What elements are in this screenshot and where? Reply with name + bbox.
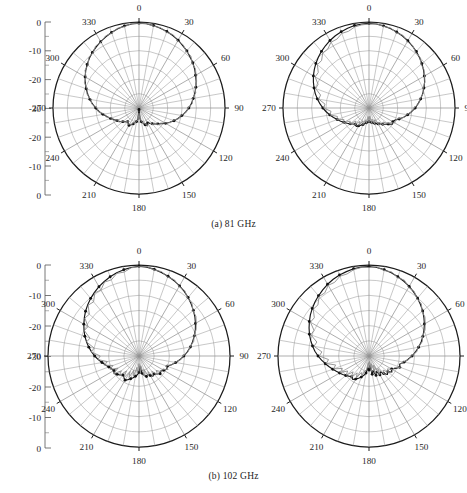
radial-tick-label: 0 xyxy=(36,444,41,454)
angular-tick-label: 120 xyxy=(453,404,467,414)
angular-tick-label: 180 xyxy=(362,203,376,213)
angular-tick-label: 270 xyxy=(32,103,46,113)
angular-tick-label: 240 xyxy=(41,404,55,414)
data-point-marker xyxy=(82,323,85,326)
data-point-marker xyxy=(371,373,374,376)
plot-b-left: 0306090120150180210240270300330 xyxy=(55,243,230,473)
data-point-marker xyxy=(124,379,127,382)
angular-tick-label: 60 xyxy=(451,53,461,63)
angular-tick-label: 300 xyxy=(41,299,55,309)
angular-tick-label: 90 xyxy=(234,103,244,113)
angular-tick-label: 330 xyxy=(80,261,94,271)
data-point-marker xyxy=(316,97,319,100)
plot-b-right: 0306090120150180210240270300330 xyxy=(285,243,460,473)
angular-tick-label: 90 xyxy=(239,351,249,361)
radial-tick-label: -20 xyxy=(29,75,42,85)
angular-tick-label: 180 xyxy=(132,203,146,213)
data-point-marker xyxy=(312,74,315,77)
data-point-marker xyxy=(159,372,162,375)
radial-tick-label: -10 xyxy=(29,413,42,423)
angular-tick-label: 150 xyxy=(415,442,429,452)
angular-tick-label: 180 xyxy=(362,456,376,466)
data-point-marker xyxy=(320,50,323,53)
data-point-marker xyxy=(313,87,316,90)
data-point-marker xyxy=(83,335,86,338)
angular-tick-label: 300 xyxy=(276,53,290,63)
angular-tick-label: 240 xyxy=(276,153,290,163)
radial-tick-label: -10 xyxy=(29,291,42,301)
angular-tick-label: 150 xyxy=(182,190,196,200)
angular-tick-label: 150 xyxy=(185,442,199,452)
data-point-marker xyxy=(329,39,332,42)
caption-panel-a: (a) 81 GHz xyxy=(0,219,467,229)
data-point-marker xyxy=(122,268,125,271)
angular-tick-label: 210 xyxy=(312,190,326,200)
data-point-marker xyxy=(375,374,378,377)
angular-tick-label: 60 xyxy=(455,299,465,309)
angular-tick-label: 300 xyxy=(271,299,285,309)
radial-tick-label: -10 xyxy=(29,162,42,172)
data-point-marker xyxy=(93,355,96,358)
angular-tick-label: 150 xyxy=(412,190,426,200)
angular-tick-label: 270 xyxy=(27,351,41,361)
radial-tick-label: 0 xyxy=(36,18,41,28)
data-point-marker xyxy=(311,345,314,348)
angular-tick-label: 270 xyxy=(257,351,271,361)
angular-tick-label: 60 xyxy=(221,53,231,63)
polar-radiation-pattern-figure: 0 -10 -20 -30 -20 -10 0 0306090120150180… xyxy=(0,0,467,493)
data-point-marker xyxy=(107,366,110,369)
radial-tick-label: -20 xyxy=(29,383,42,393)
data-point-marker xyxy=(308,333,311,336)
angular-tick-label: 60 xyxy=(225,299,235,309)
angular-tick-label: 300 xyxy=(46,53,60,63)
angular-tick-label: 240 xyxy=(46,153,60,163)
angular-tick-label: 0 xyxy=(137,246,142,256)
angular-tick-label: 330 xyxy=(310,261,324,271)
angular-tick-label: 0 xyxy=(367,3,372,13)
angular-tick-label: 240 xyxy=(271,404,285,414)
data-point-marker xyxy=(98,285,101,288)
angular-tick-label: 120 xyxy=(223,404,237,414)
data-point-marker xyxy=(129,377,132,380)
data-point-marker xyxy=(109,275,112,278)
angular-tick-label: 120 xyxy=(449,153,463,163)
angular-tick-label: 330 xyxy=(312,17,326,27)
data-point-marker xyxy=(368,369,371,372)
angular-tick-label: 120 xyxy=(219,153,233,163)
angular-tick-label: 210 xyxy=(82,190,96,200)
data-point-marker xyxy=(360,376,363,379)
caption-panel-b: (b) 102 GHz xyxy=(0,471,467,481)
angular-tick-label: 30 xyxy=(187,261,197,271)
panel-a: 0 -10 -20 -30 -20 -10 0 0306090120150180… xyxy=(0,0,467,240)
angular-tick-label: 180 xyxy=(132,456,146,466)
data-point-marker xyxy=(116,373,119,376)
data-point-marker xyxy=(89,297,92,300)
data-point-marker xyxy=(84,310,87,313)
radial-tick-label: 0 xyxy=(36,261,41,271)
radial-tick-label: -10 xyxy=(29,46,42,56)
data-point-marker xyxy=(101,361,104,364)
radial-tick-label: -20 xyxy=(29,322,42,332)
angular-tick-label: 210 xyxy=(310,442,324,452)
data-point-marker xyxy=(87,346,90,349)
angular-tick-label: 0 xyxy=(367,246,372,256)
panel-b: 0 -10 -20 -30 -20 -10 0 0306090120150180… xyxy=(0,243,467,493)
plot-a-right: 0306090120150180210240270300330 xyxy=(285,0,460,220)
angular-tick-label: 0 xyxy=(137,3,142,13)
angular-tick-label: 30 xyxy=(184,17,194,27)
angular-tick-label: 270 xyxy=(262,103,276,113)
angular-tick-label: 30 xyxy=(417,261,427,271)
angular-tick-label: 330 xyxy=(82,17,96,27)
plot-a-left: 0306090120150180210240270300330 xyxy=(55,0,230,220)
data-point-marker xyxy=(138,108,141,111)
radial-tick-label: 0 xyxy=(36,191,41,201)
data-point-marker xyxy=(314,62,317,65)
radial-tick-label: -20 xyxy=(29,133,42,143)
data-point-marker xyxy=(365,372,368,375)
angular-tick-label: 30 xyxy=(414,17,424,27)
angular-tick-label: 210 xyxy=(80,442,94,452)
